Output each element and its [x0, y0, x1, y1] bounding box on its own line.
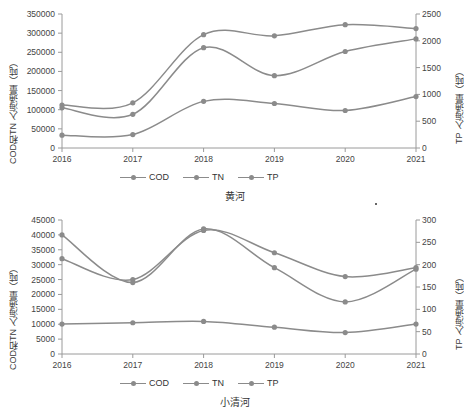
caption-huanghe: 黄河 [0, 188, 469, 203]
ytick-right-0-2: 1000 [422, 89, 441, 99]
data-point-tn-0-4 [343, 49, 348, 54]
data-point-tp-0-4 [343, 108, 348, 113]
legend-item-tn-0[interactable]: TN [183, 172, 224, 182]
data-point-tp-0-0 [59, 133, 64, 138]
chart-block-xiaoqinghe: COD和TN 入海通量（吨） TP 入海通量（吨） 05000100001500… [0, 206, 469, 412]
data-point-cod-1-3 [272, 250, 277, 255]
xtick-0-0: 2016 [46, 154, 78, 164]
legend-item-cod-0[interactable]: COD [120, 172, 169, 182]
ytick-left-1-3: 15000 [0, 304, 55, 314]
data-point-cod-0-3 [272, 33, 277, 38]
series-line-cod-0 [62, 25, 416, 109]
chart-svg-0 [0, 0, 469, 175]
legend-item-tp-1[interactable]: TP [238, 378, 279, 388]
legend-marker-tn-1 [183, 383, 209, 384]
xtick-0-2: 2018 [188, 154, 220, 164]
data-point-tp-1-5 [413, 321, 418, 326]
series-line-tn-0 [62, 39, 416, 118]
ytick-left-0-6: 300000 [0, 28, 55, 38]
data-point-tn-1-1 [130, 280, 135, 285]
xtick-1-2: 2018 [188, 360, 220, 370]
ytick-left-1-4: 20000 [0, 289, 55, 299]
data-point-tn-0-2 [201, 45, 206, 50]
data-point-tp-0-2 [201, 99, 206, 104]
data-point-cod-1-0 [59, 256, 64, 261]
legend-label-cod-1: COD [149, 378, 169, 388]
ytick-right-0-1: 500 [422, 116, 436, 126]
series-line-tn-1 [62, 229, 416, 302]
ytick-left-1-9: 45000 [0, 215, 55, 225]
legend-label-tn-1: TN [212, 378, 224, 388]
ytick-left-0-7: 350000 [0, 9, 55, 19]
ytick-left-0-4: 200000 [0, 66, 55, 76]
ytick-right-1-4: 200 [422, 260, 436, 270]
xtick-1-3: 2019 [258, 360, 290, 370]
ytick-left-0-0: 0 [0, 143, 55, 153]
data-point-tn-0-3 [272, 73, 277, 78]
ytick-right-1-3: 150 [422, 282, 436, 292]
data-point-tn-0-0 [59, 105, 64, 110]
stray-dot-marker [375, 203, 377, 205]
ytick-left-0-1: 50000 [0, 124, 55, 134]
data-point-cod-1-4 [343, 274, 348, 279]
data-point-tn-0-5 [413, 36, 418, 41]
ytick-right-0-3: 1500 [422, 63, 441, 73]
data-point-tp-0-1 [130, 132, 135, 137]
data-point-tp-1-0 [59, 321, 64, 326]
legend-marker-cod-1 [120, 383, 146, 384]
xtick-1-5: 2021 [400, 360, 432, 370]
legend-item-cod-1[interactable]: COD [120, 378, 169, 388]
ytick-right-0-5: 2500 [422, 9, 441, 19]
xtick-0-4: 2020 [329, 154, 361, 164]
series-line-tp-1 [62, 321, 416, 332]
data-point-cod-0-2 [201, 32, 206, 37]
plot-area-xiaoqinghe: 0500010000150002000025000300003500040000… [0, 206, 469, 381]
data-point-tn-1-0 [59, 232, 64, 237]
ytick-right-1-0: 0 [422, 349, 427, 359]
data-point-cod-0-5 [413, 26, 418, 31]
xtick-1-0: 2016 [46, 360, 78, 370]
data-point-tn-1-4 [343, 299, 348, 304]
data-point-tn-1-5 [413, 267, 418, 272]
data-point-tn-1-3 [272, 265, 277, 270]
data-point-tp-1-3 [272, 325, 277, 330]
data-point-tp-1-4 [343, 330, 348, 335]
ytick-right-1-1: 50 [422, 327, 431, 337]
series-line-cod-1 [62, 230, 416, 280]
ytick-left-1-0: 0 [0, 349, 55, 359]
ytick-left-1-6: 30000 [0, 260, 55, 270]
ytick-right-1-5: 250 [422, 237, 436, 247]
plot-area-huanghe: 0500001000001500002000002500003000003500… [0, 0, 469, 175]
ytick-left-1-2: 10000 [0, 319, 55, 329]
data-point-cod-0-4 [343, 22, 348, 27]
data-point-tp-1-2 [201, 319, 206, 324]
ytick-right-0-4: 2000 [422, 36, 441, 46]
legend-label-tn-0: TN [212, 172, 224, 182]
chart-block-huanghe: COD和TN 入海通量（吨） TP 入海通量（吨） 05000010000015… [0, 0, 469, 206]
legend-item-tn-1[interactable]: TN [183, 378, 224, 388]
legend-huanghe: COD TN TP [120, 172, 279, 182]
legend-xiaoqinghe: COD TN TP [120, 378, 279, 388]
data-point-tp-0-3 [272, 101, 277, 106]
legend-label-tp-0: TP [267, 172, 279, 182]
caption-xiaoqinghe: 小清河 [0, 394, 469, 409]
data-point-cod-0-1 [130, 100, 135, 105]
xtick-0-1: 2017 [117, 154, 149, 164]
ytick-left-1-7: 35000 [0, 245, 55, 255]
xtick-0-3: 2019 [258, 154, 290, 164]
data-point-tn-0-1 [130, 112, 135, 117]
legend-marker-tp-1 [238, 383, 264, 384]
ytick-left-1-8: 40000 [0, 230, 55, 240]
ytick-right-1-6: 300 [422, 215, 436, 225]
xtick-0-5: 2021 [400, 154, 432, 164]
series-line-tp-0 [62, 97, 416, 138]
chart-svg-1 [0, 206, 469, 381]
legend-label-cod-0: COD [149, 172, 169, 182]
legend-item-tp-0[interactable]: TP [238, 172, 279, 182]
legend-label-tp-1: TP [267, 378, 279, 388]
ytick-right-0-0: 0 [422, 143, 427, 153]
xtick-1-1: 2017 [117, 360, 149, 370]
ytick-left-1-5: 25000 [0, 275, 55, 285]
ytick-left-0-3: 150000 [0, 86, 55, 96]
data-point-tp-0-5 [413, 94, 418, 99]
